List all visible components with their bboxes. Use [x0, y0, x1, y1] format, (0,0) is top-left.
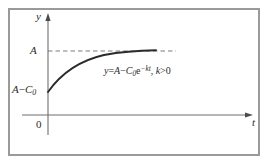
- math-figure: y t A A−C0 0 y=A−C0e−kt, k>0: [0, 0, 275, 168]
- equation-coef-C: C: [126, 65, 133, 76]
- intercept-subscript-zero: 0: [32, 88, 36, 97]
- y-axis-arrowhead: [45, 13, 50, 21]
- x-axis-label: t: [252, 117, 255, 128]
- curve-equation-label: y=A−C0e−kt, k>0: [104, 66, 171, 78]
- y-axis-label: y: [36, 11, 41, 22]
- origin-label: 0: [36, 119, 42, 130]
- condition-value: 0: [166, 65, 171, 76]
- graph-canvas: [0, 0, 275, 168]
- intercept-term-A: A: [12, 83, 19, 95]
- asymptote-label-A: A: [30, 45, 37, 56]
- y-intercept-label: A−C0: [12, 84, 36, 97]
- equation-separator: ,: [151, 65, 154, 76]
